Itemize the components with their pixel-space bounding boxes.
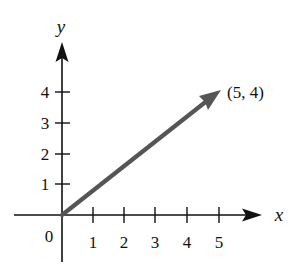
- y-tick-label-3: 3: [41, 114, 50, 133]
- x-tick-label-2: 2: [120, 233, 129, 252]
- y-axis-label: y: [55, 16, 66, 37]
- coordinate-diagram: 1 2 3 4 5 1 2 3 4 0 x y (5, 4): [0, 0, 303, 268]
- x-axis-label: x: [274, 204, 284, 225]
- x-axis: [14, 209, 262, 222]
- x-tick-label-3: 3: [151, 233, 160, 252]
- vector-5-4: [62, 90, 221, 215]
- y-axis: [56, 42, 69, 262]
- x-tick-label-5: 5: [215, 233, 224, 252]
- x-tick-label-4: 4: [183, 233, 192, 252]
- vector-endpoint-label: (5, 4): [227, 83, 264, 102]
- origin-label: 0: [45, 227, 54, 246]
- y-tick-label-2: 2: [41, 145, 50, 164]
- x-tick-label-1: 1: [89, 233, 98, 252]
- y-tick-label-4: 4: [41, 83, 50, 102]
- y-tick-label-1: 1: [41, 175, 50, 194]
